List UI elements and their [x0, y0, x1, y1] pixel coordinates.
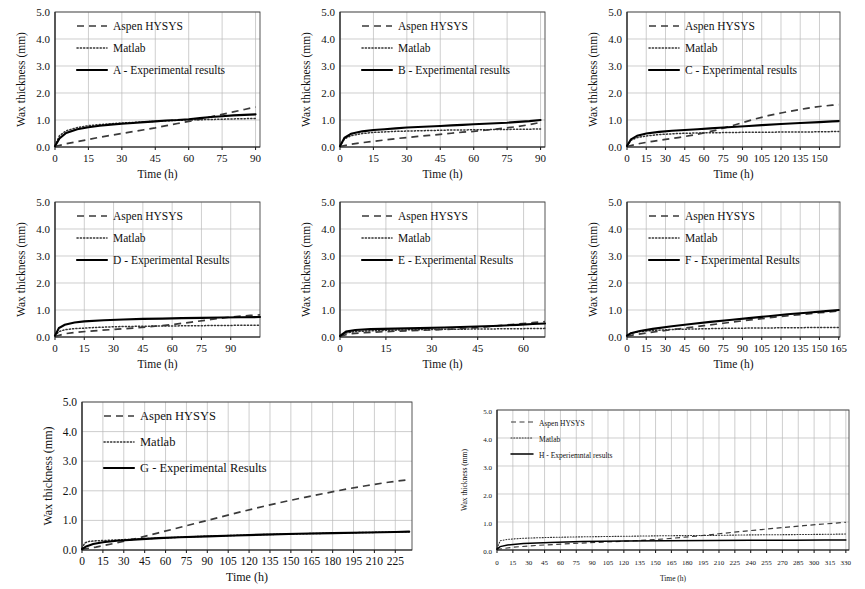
- x-tick-label: 75: [502, 152, 514, 164]
- x-tick-label: 15: [97, 555, 109, 567]
- chart-panel-b: 0.01.02.03.04.05.00153045607590Time (h)W…: [285, 0, 570, 190]
- y-axis-title: Wax thickness (mm): [41, 426, 55, 525]
- x-tick-label: 120: [773, 152, 790, 164]
- x-tick-label: 150: [811, 152, 828, 164]
- x-tick-label: 45: [137, 342, 149, 354]
- x-tick-label: 300: [809, 559, 820, 567]
- legend-label-d-2: D - Experimental Results: [113, 254, 230, 267]
- chart-panel-e: 0.01.02.03.04.05.0015304560Time (h)Wax t…: [285, 190, 570, 380]
- x-tick-label: 30: [108, 342, 120, 354]
- x-tick-label: 30: [660, 342, 672, 354]
- chart-svg-g: 0.01.02.03.04.05.00153045607590105120135…: [10, 388, 435, 589]
- x-tick-label: 90: [202, 555, 214, 567]
- x-tick-label: 195: [345, 555, 363, 567]
- chart-svg-d: 0.01.02.03.04.05.00153045607590Time (h)W…: [0, 190, 285, 380]
- y-tick-label: 2.0: [36, 277, 50, 289]
- y-tick-label: 0.0: [321, 141, 335, 153]
- legend-label-h-2: H - Experiemntal results: [539, 451, 613, 460]
- y-tick-label: 4.0: [608, 33, 622, 45]
- x-tick-label: 30: [426, 342, 438, 354]
- y-tick-label: 5.0: [63, 396, 78, 408]
- legend-label-b-1: Matlab: [398, 42, 431, 54]
- x-tick-label: 45: [679, 342, 691, 354]
- legend-label-d-0: Aspen HYSYS: [113, 210, 183, 223]
- y-tick-label: 0.0: [36, 331, 50, 343]
- x-tick-label: 90: [737, 152, 749, 164]
- x-tick-label: 15: [641, 342, 653, 354]
- y-tick-label: 1.0: [608, 304, 622, 316]
- legend-label-g-1: Matlab: [140, 435, 175, 449]
- y-tick-label: 3.0: [36, 250, 50, 262]
- y-tick-label: 5.0: [36, 196, 50, 208]
- y-tick-label: 3.0: [608, 250, 622, 262]
- x-axis-title: Time (h): [422, 358, 462, 371]
- plot-frame: [340, 202, 545, 337]
- x-tick-label: 45: [472, 342, 484, 354]
- y-tick-label: 3.0: [63, 455, 78, 467]
- x-tick-label: 75: [718, 342, 730, 354]
- legend-label-c-1: Matlab: [685, 42, 718, 54]
- x-tick-label: 135: [634, 559, 645, 567]
- legend-label-a-0: Aspen HYSYS: [113, 20, 183, 33]
- x-tick-label: 45: [150, 152, 162, 164]
- series-dash-f: [627, 311, 839, 336]
- x-tick-label: 180: [682, 559, 693, 567]
- series-solid-d: [55, 317, 260, 336]
- x-tick-label: 60: [160, 555, 172, 567]
- x-tick-label: 75: [196, 342, 208, 354]
- plot-frame: [627, 202, 840, 337]
- x-tick-label: 90: [737, 342, 749, 354]
- x-tick-label: 120: [240, 555, 258, 567]
- legend-label-g-0: Aspen HYSYS: [140, 409, 216, 423]
- x-tick-label: 15: [83, 152, 95, 164]
- legend-label-h-0: Aspen HYSYS: [539, 419, 585, 428]
- x-tick-label: 30: [118, 555, 130, 567]
- y-tick-label: 5.0: [608, 6, 622, 18]
- x-tick-label: 75: [718, 152, 730, 164]
- chart-svg-f: 0.01.02.03.04.05.00153045607590105120135…: [570, 190, 865, 380]
- x-tick-label: 15: [509, 559, 516, 567]
- x-tick-label: 15: [368, 152, 380, 164]
- chart-panel-g: 0.01.02.03.04.05.00153045607590105120135…: [10, 388, 435, 589]
- y-tick-label: 2.0: [608, 277, 622, 289]
- chart-panel-h: 0.01.02.03.04.05.00153045607590105120135…: [445, 400, 865, 589]
- x-tick-label: 0: [337, 342, 343, 354]
- x-tick-label: 105: [603, 559, 614, 567]
- x-tick-label: 30: [525, 559, 533, 567]
- x-tick-label: 15: [641, 152, 653, 164]
- x-tick-label: 180: [324, 555, 342, 567]
- x-tick-label: 0: [624, 342, 630, 354]
- plot-frame: [82, 402, 412, 550]
- legend-label-c-0: Aspen HYSYS: [685, 20, 755, 33]
- x-tick-label: 15: [380, 342, 392, 354]
- x-tick-label: 0: [52, 342, 58, 354]
- x-tick-label: 135: [792, 152, 809, 164]
- legend-label-c-2: C - Experimental results: [685, 64, 798, 77]
- x-tick-label: 270: [777, 559, 788, 567]
- x-tick-label: 105: [753, 152, 770, 164]
- y-tick-label: 3.0: [321, 60, 335, 72]
- x-tick-label: 45: [435, 152, 447, 164]
- legend-label-b-2: B - Experimental results: [398, 64, 511, 77]
- y-tick-label: 0.0: [608, 331, 622, 343]
- x-tick-label: 225: [387, 555, 405, 567]
- x-tick-label: 45: [139, 555, 151, 567]
- legend-label-e-1: Matlab: [398, 232, 431, 244]
- y-tick-label: 1.0: [36, 304, 50, 316]
- series-dash-c: [627, 105, 839, 147]
- chart-svg-e: 0.01.02.03.04.05.0015304560Time (h)Wax t…: [285, 190, 570, 380]
- x-tick-label: 75: [181, 555, 193, 567]
- x-tick-label: 0: [52, 152, 58, 164]
- x-tick-label: 150: [811, 342, 828, 354]
- y-axis-title: Wax thickness (mm): [300, 222, 313, 317]
- x-tick-label: 135: [261, 555, 279, 567]
- x-tick-label: 90: [250, 152, 262, 164]
- x-axis-title: Time (h): [137, 168, 177, 181]
- legend-label-b-0: Aspen HYSYS: [398, 20, 468, 33]
- x-axis-title: Time (h): [422, 168, 462, 181]
- series-dot-d: [55, 325, 260, 336]
- y-tick-label: 0.0: [483, 548, 492, 556]
- y-tick-label: 0.0: [63, 544, 78, 556]
- x-tick-label: 165: [303, 555, 321, 567]
- x-tick-label: 15: [79, 342, 91, 354]
